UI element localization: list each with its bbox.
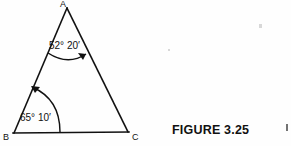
- figure-page: A B C 52° 20′ 65° 10′ FIGURE 3.25: [0, 0, 291, 146]
- triangle-side-bc: [13, 132, 129, 133]
- triangle-figure-svg: A B C 52° 20′ 65° 10′ FIGURE 3.25: [0, 0, 291, 146]
- triangle-side-ac: [67, 8, 128, 132]
- scan-speck-mid: [168, 49, 170, 51]
- scan-speck-upper-right: [259, 24, 262, 28]
- vertex-label-c: C: [132, 132, 139, 142]
- angle-label-a: 52° 20′: [49, 40, 80, 51]
- figure-caption: FIGURE 3.25: [172, 123, 249, 137]
- angle-arc-a-arrowhead: [78, 53, 86, 60]
- vertex-label-b: B: [3, 132, 9, 142]
- scan-artifact-right-edge: [286, 124, 288, 131]
- angle-arc-b: [32, 87, 60, 132]
- angle-label-b: 65° 10′: [20, 112, 51, 123]
- vertex-label-a: A: [60, 0, 66, 9]
